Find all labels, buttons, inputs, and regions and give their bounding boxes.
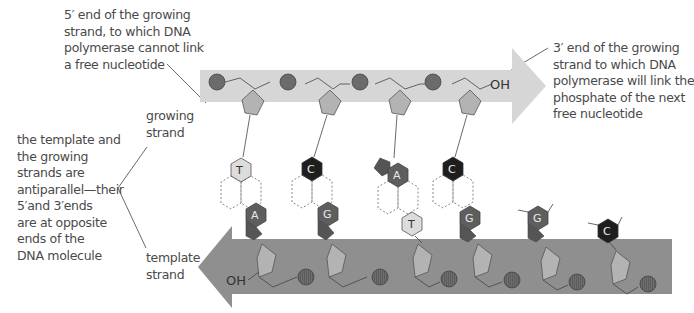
svg-text:T: T — [407, 218, 415, 231]
svg-text:A: A — [251, 209, 259, 222]
svg-text:A: A — [393, 169, 401, 182]
growing-oh-label: OH — [490, 77, 510, 92]
svg-text:G: G — [323, 208, 332, 221]
svg-text:C: C — [448, 163, 456, 176]
svg-text:T: T — [235, 164, 243, 177]
unpaired-base-g: G — [518, 204, 553, 242]
svg-text:G: G — [533, 212, 542, 225]
svg-text:C: C — [307, 163, 315, 176]
template-oh-label: OH — [226, 273, 246, 288]
base-pair-a-t: A T — [374, 158, 422, 243]
svg-text:G: G — [465, 212, 474, 225]
svg-text:C: C — [603, 225, 611, 238]
base-pair-c-g: C G — [292, 157, 338, 240]
base-pair-t-a: T A — [221, 158, 266, 240]
base-pair-c-g-2: C G — [433, 157, 480, 242]
